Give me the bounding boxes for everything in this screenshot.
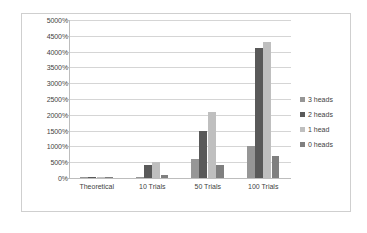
legend-item[interactable]: 0 heads: [300, 137, 350, 152]
bar[interactable]: [191, 159, 199, 178]
bar[interactable]: [80, 177, 88, 178]
plot-wrapper: 0%500%1000%1500%2000%2500%3000%3500%4000…: [22, 14, 350, 211]
bar[interactable]: [161, 175, 169, 178]
y-axis-tick-label: 4500%: [47, 32, 68, 39]
bar-group: [191, 20, 224, 178]
bar[interactable]: [152, 162, 160, 178]
chart-container: 0%500%1000%1500%2000%2500%3000%3500%4000…: [21, 13, 351, 212]
legend-swatch-icon: [300, 127, 305, 132]
bar-group: [136, 20, 169, 178]
y-axis-tick-label: 1500%: [47, 127, 68, 134]
plot-area: [69, 20, 291, 178]
x-axis-tick-label: 10 Trials: [139, 182, 165, 191]
legend-item-label: 1 head: [308, 126, 329, 134]
x-axis-tick-label: 50 Trials: [195, 182, 221, 191]
x-axis-tick-label: 100 Trials: [248, 182, 278, 191]
chart-legend: 3 heads2 heads1 head0 heads: [300, 92, 350, 152]
bar[interactable]: [105, 177, 113, 178]
bar[interactable]: [255, 48, 263, 178]
y-axis-tick-label: 1000%: [47, 143, 68, 150]
legend-item[interactable]: 1 head: [300, 122, 350, 137]
y-axis-tick-label: 2500%: [47, 96, 68, 103]
legend-swatch-icon: [300, 97, 305, 102]
bar-group: [80, 20, 113, 178]
y-axis-tick-label: 4000%: [47, 48, 68, 55]
x-axis-tick-labels: Theoretical10 Trials50 Trials100 Trials: [69, 182, 291, 198]
y-axis-tick-label: 3500%: [47, 64, 68, 71]
y-axis-tick-labels: 0%500%1000%1500%2000%2500%3000%3500%4000…: [24, 20, 68, 178]
bar[interactable]: [216, 165, 224, 178]
legend-item-label: 0 heads: [308, 141, 333, 149]
x-axis-tick-label: Theoretical: [79, 182, 114, 191]
bar[interactable]: [199, 131, 207, 178]
y-axis-tick-label: 3000%: [47, 80, 68, 87]
y-axis-tick-label: 5000%: [47, 17, 68, 24]
bars-layer: [69, 20, 291, 178]
legend-swatch-icon: [300, 112, 305, 117]
legend-swatch-icon: [300, 142, 305, 147]
bar[interactable]: [136, 177, 144, 178]
bar-group: [247, 20, 280, 178]
y-axis-line: [69, 20, 70, 179]
legend-item-label: 2 heads: [308, 111, 333, 119]
bar[interactable]: [263, 42, 271, 178]
bar[interactable]: [208, 112, 216, 178]
legend-item-label: 3 heads: [308, 96, 333, 104]
axis-baseline: [69, 178, 291, 179]
bar[interactable]: [272, 156, 280, 178]
bar[interactable]: [144, 165, 152, 178]
y-axis-tick-label: 2000%: [47, 111, 68, 118]
bar[interactable]: [88, 177, 96, 178]
bar[interactable]: [97, 177, 105, 178]
bar[interactable]: [247, 146, 255, 178]
legend-item[interactable]: 3 heads: [300, 92, 350, 107]
legend-item[interactable]: 2 heads: [300, 107, 350, 122]
